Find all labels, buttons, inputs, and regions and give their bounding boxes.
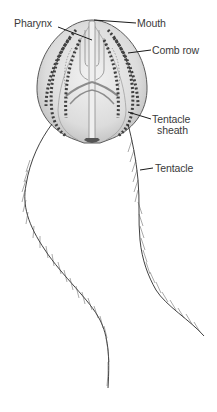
tentacle-sheath-label-line2: sheath <box>157 124 188 136</box>
ctenophore-illustration <box>0 0 217 412</box>
pharynx-label: Pharynx <box>14 17 52 29</box>
ctenophore-diagram: Pharynx Mouth Comb row Tentacle sheath T… <box>0 0 217 412</box>
tentacle-label: Tentacle <box>155 162 193 174</box>
tentacle-left <box>22 124 109 388</box>
comb-row-label: Comb row <box>152 44 199 56</box>
tentacle-right <box>128 124 204 336</box>
tentacle-leader <box>140 168 153 170</box>
mouth-label: Mouth <box>137 17 166 29</box>
